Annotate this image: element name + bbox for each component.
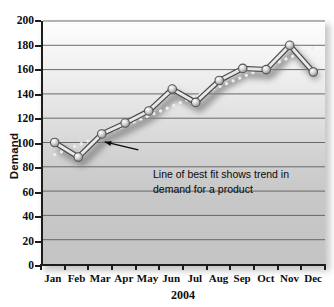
data-point-nov	[285, 41, 294, 50]
x-tick-mark	[135, 264, 137, 270]
x-tick-label-nov: Nov	[280, 272, 299, 284]
y-tick-label: 120	[17, 113, 34, 125]
x-tick-mark	[277, 264, 279, 270]
annotation-line-2: demand for a product	[153, 182, 289, 197]
x-tick-mark	[40, 264, 42, 270]
x-tick-label-feb: Feb	[68, 272, 86, 284]
y-tick-label: 80	[23, 162, 35, 174]
x-tick-label-jun: Jun	[162, 272, 180, 284]
x-tick-mark	[324, 264, 326, 270]
x-tick-mark	[300, 264, 302, 270]
data-point-sep	[239, 64, 248, 73]
x-tick-label-oct: Oct	[257, 272, 274, 284]
series-shadow	[59, 51, 318, 163]
x-tick-mark	[253, 264, 255, 270]
y-tick-label: 40	[23, 211, 35, 223]
data-point-dec	[309, 68, 318, 77]
x-tick-label-dec: Dec	[304, 272, 322, 284]
x-tick-label-jan: Jan	[44, 272, 61, 284]
y-tick-label: 0	[28, 260, 34, 272]
y-tick-label: 200	[17, 15, 34, 27]
x-tick-label-mar: Mar	[90, 272, 111, 284]
y-tick-label: 180	[17, 40, 34, 52]
x-tick-label-sep: Sep	[234, 272, 251, 284]
x-tick-mark	[111, 264, 113, 270]
x-tick-mark	[64, 264, 66, 270]
y-tick-label: 60	[23, 187, 35, 199]
x-axis: JanFebMarAprMayJunJulAugSepOctNovDec	[41, 270, 325, 290]
chart-figure: Demand 020406080100120140160180200	[0, 0, 334, 307]
x-tick-label-may: May	[137, 272, 158, 284]
y-tick-label: 20	[23, 236, 35, 248]
data-point-aug	[215, 76, 224, 85]
data-point-oct	[262, 65, 271, 74]
data-point-feb	[74, 153, 83, 162]
x-tick-mark	[229, 264, 231, 270]
x-tick-mark	[87, 264, 89, 270]
annotation-line-1: Line of best fit shows trend in	[153, 167, 289, 182]
plot-area: Line of best fit shows trend in demand f…	[41, 21, 325, 266]
y-axis: Demand 020406080100120140160180200	[0, 0, 41, 307]
x-tick-label-aug: Aug	[209, 272, 229, 284]
x-tick-mark	[182, 264, 184, 270]
y-tick-label: 140	[17, 89, 34, 101]
annotation-text: Line of best fit shows trend in demand f…	[153, 167, 289, 197]
data-point-apr	[121, 119, 130, 128]
line-shadow	[59, 51, 318, 163]
data-point-mar	[98, 130, 107, 139]
y-tick-label: 160	[17, 64, 34, 76]
y-tick-label: 100	[17, 138, 34, 150]
x-tick-label-apr: Apr	[114, 272, 133, 284]
data-point-jul	[191, 98, 200, 107]
x-axis-title: 2004	[41, 288, 325, 303]
data-point-may	[144, 107, 153, 116]
x-tick-mark	[206, 264, 208, 270]
chart-canvas	[43, 21, 325, 264]
x-tick-label-jul: Jul	[187, 272, 202, 284]
x-tick-mark	[158, 264, 160, 270]
data-point-jun	[168, 85, 177, 94]
data-point-jan	[50, 138, 59, 147]
